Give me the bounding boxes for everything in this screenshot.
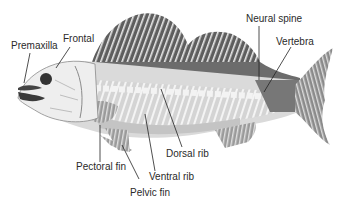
- label-ventral-rib: Ventral rib: [149, 172, 194, 182]
- label-vertebra: Vertebra: [276, 37, 314, 47]
- fish-skeleton-diagram: Premaxilla Frontal Neural spine Vertebra…: [0, 0, 350, 208]
- label-pectoral-fin: Pectoral fin: [76, 162, 126, 172]
- head: [18, 61, 98, 122]
- label-premaxilla: Premaxilla: [11, 41, 58, 51]
- label-neural-spine: Neural spine: [246, 14, 302, 24]
- label-pelvic-fin: Pelvic fin: [130, 188, 170, 198]
- tail-fin: [295, 48, 333, 145]
- eye: [40, 73, 52, 85]
- label-dorsal-rib: Dorsal rib: [166, 149, 209, 159]
- label-frontal: Frontal: [63, 34, 94, 44]
